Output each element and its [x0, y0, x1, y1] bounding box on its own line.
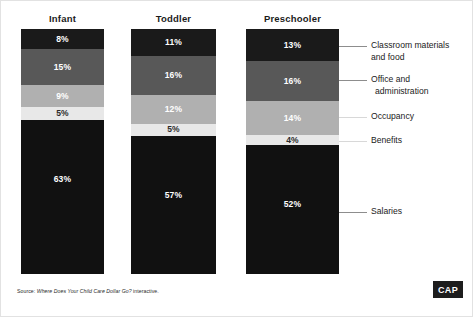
legend-item-office-and-administration[interactable]: Office and administration	[371, 74, 429, 97]
segment-value: 57%	[165, 191, 183, 200]
legend-label-line1: Classroom materials	[371, 40, 449, 50]
segment-preschooler-occupancy[interactable]: 14%	[246, 101, 339, 136]
segment-toddler-office[interactable]: 16%	[131, 56, 216, 95]
segment-value: 4%	[286, 136, 299, 145]
segment-infant-classroom[interactable]: 8%	[21, 29, 104, 49]
legend-label-line2: administration	[371, 86, 429, 98]
segment-value: 16%	[165, 71, 183, 80]
segment-toddler-occupancy[interactable]: 12%	[131, 95, 216, 124]
segment-value: 63%	[54, 175, 72, 184]
column-header-preschooler: Preschooler	[246, 13, 339, 24]
cap-logo: CAP	[433, 281, 463, 298]
leader-line-salaries	[339, 212, 367, 213]
source-note: Source: Where Does Your Child Care Dolla…	[17, 288, 159, 294]
legend-item-benefits[interactable]: Benefits	[371, 135, 402, 147]
column-header-infant: Infant	[21, 13, 104, 24]
source-title: Where Does Your Child Care Dollar Go?	[37, 288, 132, 294]
source-suffix: interactive.	[132, 288, 159, 294]
segment-toddler-classroom[interactable]: 11%	[131, 29, 216, 56]
segment-value: 15%	[54, 63, 72, 72]
segment-toddler-benefits[interactable]: 5%	[131, 124, 216, 136]
segment-infant-office[interactable]: 15%	[21, 49, 104, 86]
chart-figure: Infant Toddler Preschooler 8% 15% 9% 5% …	[0, 0, 473, 317]
segment-value: 12%	[165, 105, 183, 114]
legend-item-classroom-materials-and-food[interactable]: Classroom materials and food	[371, 40, 449, 63]
segment-infant-salaries[interactable]: 63%	[21, 120, 104, 274]
cap-logo-text: CAP	[438, 285, 458, 295]
segment-preschooler-salaries[interactable]: 52%	[246, 145, 339, 274]
column-header-toddler: Toddler	[131, 13, 216, 24]
leader-line-office	[339, 80, 367, 81]
bar-infant: 8% 15% 9% 5% 63%	[21, 29, 104, 274]
legend-label-line2: and food	[371, 52, 404, 62]
legend-item-occupancy[interactable]: Occupancy	[371, 111, 414, 123]
source-prefix: Source:	[17, 288, 37, 294]
segment-value: 8%	[56, 35, 69, 44]
segment-value: 5%	[56, 109, 69, 118]
segment-value: 13%	[284, 41, 302, 50]
segment-value: 11%	[165, 38, 182, 47]
bar-preschooler: 13% 16% 14% 4% 52%	[246, 29, 339, 274]
leader-line-classroom	[339, 46, 367, 47]
segment-preschooler-office[interactable]: 16%	[246, 61, 339, 101]
legend-label-line1: Office and	[371, 74, 410, 84]
segment-preschooler-benefits[interactable]: 4%	[246, 135, 339, 145]
segment-value: 9%	[56, 92, 69, 101]
segment-infant-benefits[interactable]: 5%	[21, 107, 104, 119]
segment-value: 52%	[284, 200, 302, 209]
segment-value: 5%	[167, 125, 180, 134]
segment-value: 14%	[284, 114, 302, 123]
leader-line-benefits	[339, 141, 367, 142]
segment-infant-occupancy[interactable]: 9%	[21, 85, 104, 107]
bar-toddler: 11% 16% 12% 5% 57%	[131, 29, 216, 274]
segment-toddler-salaries[interactable]: 57%	[131, 136, 216, 274]
segment-preschooler-classroom[interactable]: 13%	[246, 29, 339, 61]
legend-item-salaries[interactable]: Salaries	[371, 206, 402, 218]
segment-value: 16%	[284, 77, 302, 86]
leader-line-occupancy	[339, 117, 367, 118]
